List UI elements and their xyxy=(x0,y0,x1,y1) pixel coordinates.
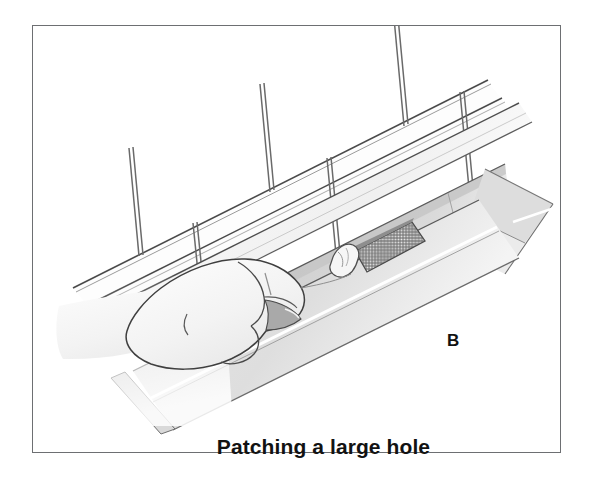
gutter-repair-illustration xyxy=(33,26,562,454)
figure-root: B Patching a large hole xyxy=(0,0,597,480)
panel-letter: B xyxy=(447,331,460,351)
figure-caption: Patching a large hole xyxy=(33,435,562,459)
figure-frame: B Patching a large hole xyxy=(32,25,561,453)
